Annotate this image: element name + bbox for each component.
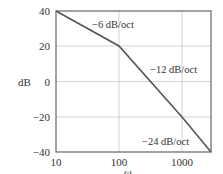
annotation-24db: −24 dB/oct: [142, 136, 189, 147]
x-tick-10: 10: [51, 156, 63, 168]
x-axis-label: ω: [124, 166, 132, 174]
y-tick-40: 40: [39, 5, 51, 17]
bode-magnitude-chart: 40 20 0 −20 −40 10 100 1000 dB ω −6 dB/o…: [0, 0, 223, 174]
y-tick-20: 20: [39, 40, 51, 52]
y-tick-0: 0: [45, 76, 51, 88]
x-tick-1000: 1000: [171, 156, 194, 168]
annotation-12db: −12 dB/oct: [150, 64, 197, 75]
y-tick-neg40: −40: [33, 146, 51, 158]
y-axis-label: dB: [18, 76, 31, 88]
y-tick-neg20: −20: [33, 111, 51, 123]
annotation-6db: −6 dB/oct: [92, 19, 134, 30]
grid: [56, 11, 211, 152]
